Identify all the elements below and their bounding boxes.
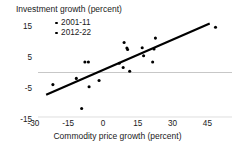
y-tick-label: -5	[8, 84, 32, 93]
x-tick-label: 45	[194, 119, 220, 128]
trendline-segment	[46, 24, 210, 95]
data-point	[75, 77, 78, 80]
x-tick-label: 0	[90, 119, 116, 128]
data-point	[83, 60, 86, 63]
data-point	[141, 46, 144, 49]
data-point	[80, 107, 83, 110]
data-point	[118, 62, 121, 65]
data-point	[142, 54, 145, 57]
x-tick-label: -15	[55, 119, 81, 128]
data-point	[128, 70, 131, 73]
x-tick-label: 30	[160, 119, 186, 128]
data-point	[122, 66, 125, 69]
data-point	[151, 60, 154, 63]
scatter-chart: Investment growth (percent) 2001-11 2012…	[0, 0, 235, 150]
x-tick-label: -30	[20, 119, 46, 128]
data-point	[126, 48, 129, 51]
data-point	[51, 83, 54, 86]
data-points	[51, 26, 217, 110]
trendline	[46, 24, 210, 95]
x-axis-label: Commodity price growth (percent)	[0, 131, 235, 141]
data-point	[152, 47, 155, 50]
data-point	[154, 37, 157, 40]
data-point	[98, 79, 101, 82]
data-point	[88, 85, 91, 88]
data-point	[123, 41, 126, 44]
data-point	[87, 60, 90, 63]
x-tick-label: 15	[125, 119, 151, 128]
y-tick-label: 15	[8, 22, 32, 31]
data-point	[214, 26, 217, 29]
y-tick-label: 5	[8, 53, 32, 62]
